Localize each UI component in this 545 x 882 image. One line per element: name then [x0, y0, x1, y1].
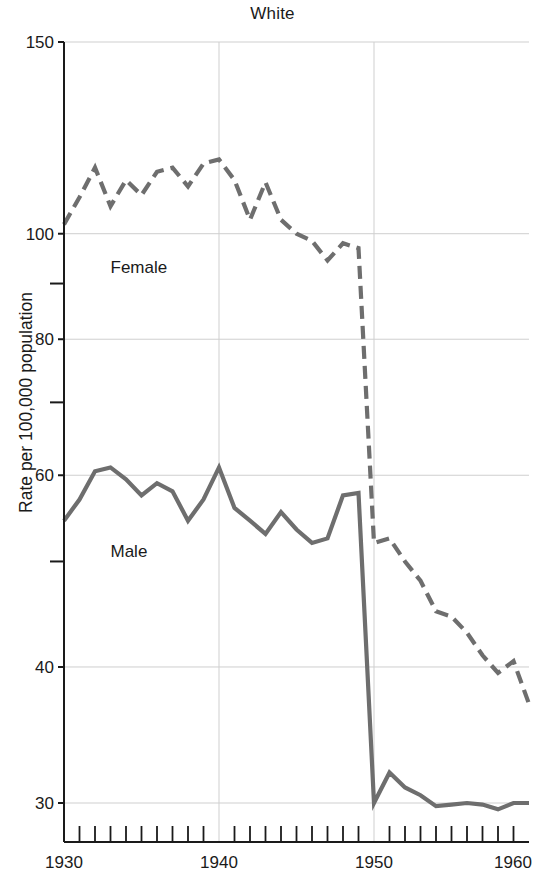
y-tick-label: 80: [35, 330, 54, 349]
y-tick-label: 60: [35, 466, 54, 485]
axis-layer: [50, 42, 529, 842]
x-tick-label: 1930: [45, 853, 83, 872]
x-tick-label: 1940: [200, 853, 238, 872]
y-tick-label: 100: [26, 225, 54, 244]
y-tick-label: 30: [35, 794, 54, 813]
x-tick-label: 1950: [355, 853, 393, 872]
tick-label-layer: 150100806040301930194019501960: [26, 33, 532, 872]
series-line-male: [64, 467, 529, 809]
data-series-layer: [64, 159, 529, 809]
series-annotation-female: Female: [111, 258, 168, 277]
y-tick-label: 150: [26, 33, 54, 52]
series-annotation-layer: FemaleMale: [111, 258, 168, 561]
x-tick-label: 1960: [494, 853, 532, 872]
chart-root: White Rate per 100,000 population 150100…: [0, 0, 545, 882]
series-line-female: [64, 159, 529, 703]
gridlines: [64, 42, 529, 842]
chart-plot-area: 150100806040301930194019501960 FemaleMal…: [0, 0, 545, 882]
y-tick-label: 40: [35, 658, 54, 677]
series-annotation-male: Male: [111, 542, 148, 561]
